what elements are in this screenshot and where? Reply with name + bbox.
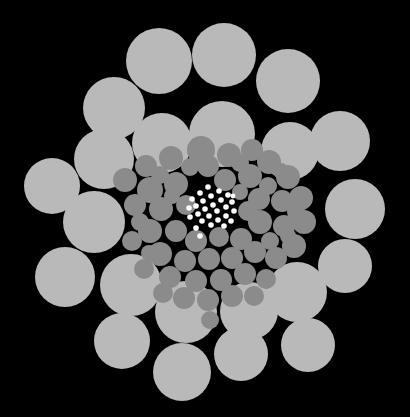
small-disc	[231, 208, 237, 214]
small-disc	[199, 218, 205, 224]
medium-disc	[153, 283, 173, 303]
large-disc	[256, 49, 320, 113]
medium-disc	[209, 227, 229, 247]
medium-disc	[165, 220, 187, 242]
small-disc	[225, 192, 231, 198]
medium-disc	[141, 245, 157, 261]
medium-disc	[113, 168, 137, 192]
medium-disc	[234, 263, 256, 285]
medium-disc	[201, 311, 219, 329]
medium-disc	[273, 163, 289, 179]
small-disc	[228, 218, 234, 224]
large-disc	[63, 191, 125, 253]
large-disc	[35, 247, 95, 307]
medium-disc	[151, 166, 169, 184]
medium-disc	[185, 230, 207, 252]
large-disc	[192, 23, 256, 87]
large-disc	[281, 318, 335, 372]
small-disc	[186, 205, 192, 211]
medium-disc	[131, 213, 149, 231]
medium-disc	[164, 188, 180, 204]
medium-disc	[287, 203, 305, 221]
medium-disc	[214, 169, 236, 191]
small-disc	[223, 213, 229, 219]
small-disc	[229, 199, 235, 205]
small-disc	[218, 197, 224, 203]
medium-disc	[174, 250, 196, 272]
medium-disc	[198, 248, 220, 270]
medium-disc	[280, 228, 296, 244]
medium-disc	[259, 177, 277, 195]
medium-disc	[197, 155, 219, 177]
medium-disc	[197, 289, 219, 311]
medium-disc	[238, 201, 258, 221]
medium-disc	[221, 285, 243, 307]
small-disc	[197, 233, 203, 239]
medium-disc	[181, 158, 199, 176]
small-disc	[197, 190, 203, 196]
small-disc	[221, 223, 227, 229]
small-disc	[202, 206, 208, 212]
medium-disc	[244, 286, 264, 306]
small-disc	[214, 208, 220, 214]
small-disc	[189, 196, 195, 202]
large-disc	[325, 179, 385, 239]
disc-packing-plot	[0, 0, 410, 417]
medium-disc	[173, 287, 195, 309]
figure-canvas	[0, 0, 410, 417]
small-disc	[195, 211, 201, 217]
large-disc	[153, 343, 211, 401]
medium-disc	[124, 194, 146, 216]
small-disc	[216, 188, 222, 194]
small-disc	[200, 198, 206, 204]
large-disc	[126, 28, 192, 94]
medium-disc	[122, 231, 142, 251]
small-disc	[193, 203, 199, 209]
small-disc	[208, 222, 214, 228]
large-disc	[310, 111, 370, 171]
small-disc	[215, 217, 221, 223]
small-disc	[210, 202, 216, 208]
medium-disc	[265, 247, 287, 269]
medium-disc	[261, 232, 279, 250]
medium-disc	[256, 269, 276, 289]
small-disc	[208, 193, 214, 199]
small-disc	[193, 225, 199, 231]
large-disc	[94, 313, 150, 369]
small-disc	[187, 214, 193, 220]
medium-disc	[231, 154, 249, 172]
small-disc	[231, 194, 236, 199]
small-disc	[206, 213, 212, 219]
large-disc	[214, 327, 268, 381]
small-disc	[205, 184, 211, 190]
medium-disc	[134, 259, 154, 279]
small-disc	[223, 204, 229, 210]
